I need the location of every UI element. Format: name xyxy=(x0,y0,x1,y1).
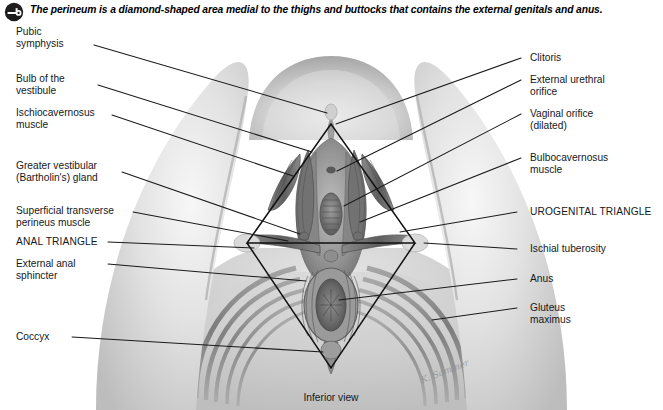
vaginal-orifice-marker xyxy=(320,193,342,235)
greater-vestibular-gland-right xyxy=(353,232,363,240)
label-bulb-of-the-vestibule: Bulb of the vestibule xyxy=(16,73,65,98)
label-bulbocavernosus-muscle: Bulbocavernosus muscle xyxy=(530,152,608,177)
label-greater-vestibular-gland: Greater vestibular (Bartholin's) gland xyxy=(16,160,98,185)
label-ischial-tuberosity: Ischial tuberosity xyxy=(530,243,606,255)
label-clitoris: Clitoris xyxy=(530,52,561,64)
label-ischiocavernosus-muscle: Ischiocavernosus muscle xyxy=(16,107,95,132)
label-gluteus-maximus: Gluteus maximus xyxy=(530,302,571,327)
label-urogenital-triangle: UROGENITAL TRIANGLE xyxy=(530,206,652,218)
label-pubic-symphysis: Pubic symphysis xyxy=(16,26,64,51)
label-anal-triangle: ANAL TRIANGLE xyxy=(16,236,98,248)
label-external-anal-sphincter: External anal sphincter xyxy=(16,258,75,283)
anatomy-figure: The perineum is a diamond-shaped area me… xyxy=(0,0,663,410)
external-urethral-orifice-marker xyxy=(327,167,335,173)
label-superficial-transverse-perineus-muscle: Superficial transverse perineus muscle xyxy=(16,205,114,230)
label-coccyx: Coccyx xyxy=(16,331,49,343)
greater-vestibular-gland-left xyxy=(299,232,309,240)
label-external-urethral-orifice: External urethral orifice xyxy=(530,74,605,99)
label-vaginal-orifice: Vaginal orifice (dilated) xyxy=(530,108,593,133)
label-anus: Anus xyxy=(530,273,553,285)
perineal-body xyxy=(324,250,338,262)
pubic-symphysis-marker xyxy=(325,104,337,120)
figure-caption: Inferior view xyxy=(281,392,381,403)
